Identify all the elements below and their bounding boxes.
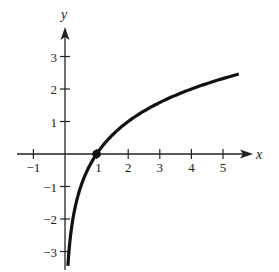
y-tick-label: −3 bbox=[43, 245, 57, 260]
x-tick-label: 5 bbox=[220, 160, 227, 175]
y-axis-label: y bbox=[59, 7, 68, 22]
x-tick-label: 3 bbox=[157, 160, 164, 175]
y-tick-label: 3 bbox=[51, 50, 58, 65]
log-function-graph: x y −112345 −3−2−1123 bbox=[0, 0, 279, 272]
point-1-0 bbox=[92, 150, 101, 159]
y-tick-label: −1 bbox=[43, 180, 57, 195]
x-axis-label: x bbox=[255, 147, 263, 162]
log-curve bbox=[68, 74, 239, 266]
x-tick-label: 2 bbox=[125, 160, 132, 175]
x-tick-label: 1 bbox=[95, 160, 102, 175]
x-tick-label: 4 bbox=[188, 160, 195, 175]
y-tick-label: 2 bbox=[51, 82, 58, 97]
x-ticks: −112345 bbox=[26, 149, 226, 175]
y-tick-label: −2 bbox=[43, 212, 57, 227]
x-tick-label: −1 bbox=[26, 160, 40, 175]
y-tick-label: 1 bbox=[51, 115, 58, 130]
